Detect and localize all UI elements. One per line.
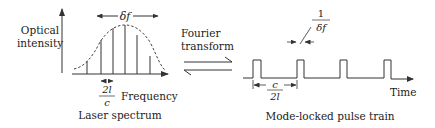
bandwidth-label: δf [120, 10, 133, 23]
y-axis-label-line1: Optical [21, 24, 60, 36]
mode-locking-diagram: δf 2l c Optical intensity Frequency Lase… [0, 0, 435, 128]
mode-spacing-denominator: c [104, 97, 110, 108]
time-axis-arrowhead [407, 76, 414, 82]
x-axis-label: Frequency [121, 90, 178, 102]
pulse-width-arrow [287, 27, 314, 44]
pulse-train-panel: c 2l 1 δf Time Mode-locked pulse train [243, 8, 417, 122]
pulse-train-caption: Mode-locked pulse train [265, 110, 394, 122]
fourier-label-line1: Fourier [181, 27, 221, 39]
longitudinal-modes [87, 25, 150, 74]
equilibrium-arrow-icon [184, 57, 232, 75]
period-numerator: c [272, 79, 278, 90]
pulse-width-denominator: δf [316, 22, 328, 33]
mode-spacing-numerator: 2l [101, 84, 112, 95]
pulse-train-waveform [243, 60, 413, 79]
pulse-width-numerator: 1 [318, 8, 324, 19]
time-axis-label: Time [390, 86, 417, 98]
laser-spectrum-caption: Laser spectrum [78, 109, 161, 121]
fourier-label-line2: transform [181, 40, 234, 52]
period-denominator: 2l [269, 91, 280, 102]
fourier-transform: Fourier transform [181, 27, 234, 75]
y-axis-label-line2: intensity [17, 37, 63, 49]
laser-spectrum-panel: δf 2l c Optical intensity Frequency Lase… [17, 9, 178, 121]
gaussian-envelope [74, 25, 166, 71]
